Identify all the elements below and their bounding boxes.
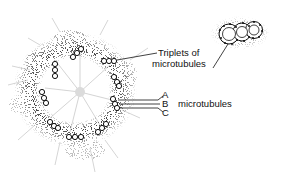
- centriole-diagram: Triplets of microtubules A B C microtubu…: [0, 0, 285, 181]
- microtubules-label: microtubules: [178, 99, 232, 109]
- triplet-inset: [210, 16, 270, 50]
- triplets-label-line1: Triplets of: [158, 48, 199, 58]
- triplet-5: [66, 134, 83, 139]
- pericentriolar-material: [8, 30, 137, 160]
- triplets-label-line2: microtubules: [152, 59, 206, 69]
- centriole-illustration: [0, 0, 285, 181]
- triplet-9: [101, 58, 116, 63]
- triplet-2: [52, 61, 57, 78]
- label-c: C: [162, 108, 169, 118]
